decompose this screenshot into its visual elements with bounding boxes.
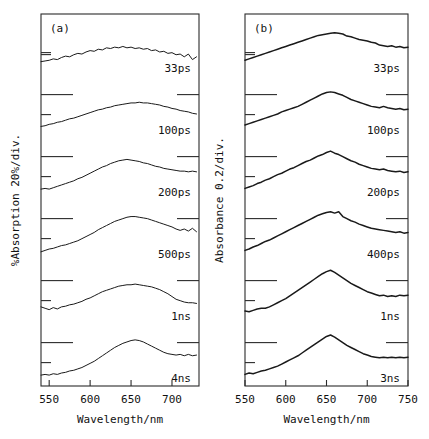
trace-33ps <box>41 46 197 61</box>
x-tick-label: 600 <box>80 393 100 406</box>
panel-a: (a)550600650700Wavelength/nm%Absorption … <box>9 14 199 426</box>
trace-label-100ps: 100ps <box>158 124 191 137</box>
panel-b: (b)550600650700750Wavelength/nmAbsorbanc… <box>213 14 418 426</box>
y-axis-title: Absorbance 0.2/div. <box>213 137 226 263</box>
trace-label-4ns: 4ns <box>171 372 191 385</box>
x-tick-label: 550 <box>39 393 59 406</box>
x-tick-label: 650 <box>317 393 337 406</box>
trace-label-200ps: 200ps <box>367 186 400 199</box>
trace-500ps <box>41 217 197 252</box>
x-axis-title: Wavelength/nm <box>77 413 163 426</box>
trace-4ns <box>41 340 197 375</box>
trace-400ps <box>245 212 408 251</box>
trace-200ps <box>41 159 197 189</box>
trace-label-1ns: 1ns <box>171 310 191 323</box>
spectra-figure: (a)550600650700Wavelength/nm%Absorption … <box>0 0 429 439</box>
trace-1ns <box>41 284 197 310</box>
trace-label-33ps: 33ps <box>165 62 192 75</box>
trace-100ps <box>245 92 408 125</box>
x-tick-label: 650 <box>121 393 141 406</box>
x-tick-label: 550 <box>235 393 255 406</box>
trace-3ns <box>245 335 408 374</box>
panel-label: (b) <box>254 22 274 35</box>
trace-33ps <box>245 33 408 61</box>
panel-label: (a) <box>50 22 70 35</box>
trace-100ps <box>41 102 197 126</box>
trace-label-200ps: 200ps <box>158 186 191 199</box>
trace-label-100ps: 100ps <box>367 124 400 137</box>
x-tick-label: 700 <box>357 393 377 406</box>
trace-label-400ps: 400ps <box>367 248 400 261</box>
trace-label-3ns: 3ns <box>380 372 400 385</box>
x-tick-label: 700 <box>162 393 182 406</box>
trace-label-1ns: 1ns <box>380 310 400 323</box>
trace-label-33ps: 33ps <box>374 62 401 75</box>
figure-canvas: (a)550600650700Wavelength/nm%Absorption … <box>0 0 429 439</box>
y-axis-title: %Absorption 20%/div. <box>9 134 22 266</box>
x-tick-label: 750 <box>398 393 418 406</box>
x-tick-label: 600 <box>276 393 296 406</box>
x-axis-title: Wavelength/nm <box>283 413 369 426</box>
trace-label-500ps: 500ps <box>158 248 191 261</box>
trace-1ns <box>245 270 408 311</box>
